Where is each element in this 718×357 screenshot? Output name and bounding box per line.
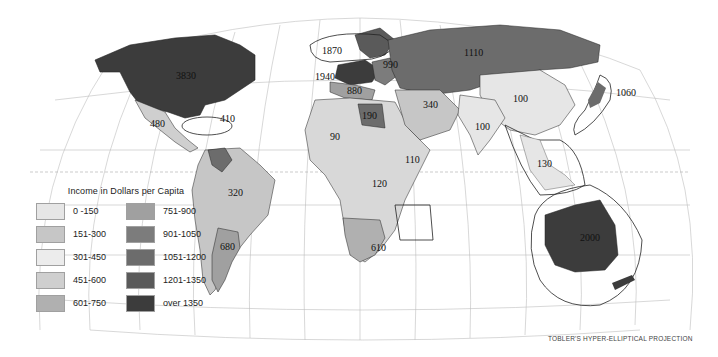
legend-label: 151-300 [73, 229, 106, 239]
legend-label: over 1350 [163, 298, 203, 308]
legend-item: 901-1050 [126, 225, 216, 243]
legend-item: over 1350 [126, 294, 216, 312]
legend-swatch [126, 295, 155, 312]
legend-label: 301-450 [73, 252, 106, 262]
legend-label: 1051-1200 [163, 252, 206, 262]
legend-swatch [36, 203, 65, 220]
legend-swatch [126, 226, 155, 243]
value-label-central-africa: 120 [372, 178, 387, 189]
value-label-libya: 190 [362, 110, 377, 121]
legend-swatch [36, 295, 65, 312]
value-label-west-africa: 90 [330, 131, 340, 142]
legend-label: 1201-1350 [163, 275, 206, 285]
value-label-soviet-union: 1110 [464, 47, 483, 58]
region-south-africa [343, 218, 385, 262]
value-label-east-africa: 110 [405, 154, 420, 165]
value-label-china: 100 [513, 93, 528, 104]
legend-title: Income in Dollars per Capita [36, 186, 216, 196]
legend-item: 451-600 [36, 271, 126, 289]
value-label-brazil: 320 [228, 187, 243, 198]
legend-item: 0 -150 [36, 202, 126, 220]
legend-label: 451-600 [73, 275, 106, 285]
value-label-argentina: 680 [220, 241, 235, 252]
legend-item: 151-300 [36, 225, 126, 243]
legend-swatch [36, 272, 65, 289]
legend-label: 0 -150 [73, 206, 99, 216]
legend: Income in Dollars per Capita 0 -150 151-… [36, 186, 216, 312]
region-new-zealand [612, 275, 635, 290]
projection-caption: TOBLER'S HYPER-ELLIPTICAL PROJECTION [548, 335, 693, 342]
value-label-southern-europe: 880 [347, 85, 362, 96]
legend-swatch [126, 203, 155, 220]
legend-item: 301-450 [36, 248, 126, 266]
legend-swatch [126, 272, 155, 289]
region-north-america [95, 35, 255, 118]
value-label-north-america: 3830 [176, 70, 196, 81]
legend-label: 751-900 [163, 206, 196, 216]
legend-item: 1201-1350 [126, 271, 216, 289]
value-label-eastern-europe: 990 [383, 59, 398, 70]
legend-label: 601-750 [73, 298, 106, 308]
legend-swatch [126, 249, 155, 266]
value-label-india: 100 [475, 121, 490, 132]
legend-item: 1051-1200 [126, 248, 216, 266]
legend-swatch [36, 226, 65, 243]
value-label-caribbean: 410 [220, 113, 235, 124]
value-label-southeast-asia: 130 [537, 158, 552, 169]
value-label-japan: 1060 [616, 87, 636, 98]
value-label-mexico: 480 [150, 118, 165, 129]
value-label-south-africa: 610 [371, 242, 386, 253]
value-label-australia: 2000 [580, 232, 600, 243]
legend-grid: 0 -150 151-300 301-450 451-600 601-750 7… [36, 202, 216, 312]
legend-item: 751-900 [126, 202, 216, 220]
region-argentina [212, 228, 240, 292]
value-label-middle-east: 340 [423, 99, 438, 110]
legend-item: 601-750 [36, 294, 126, 312]
legend-swatch [36, 249, 65, 266]
legend-label: 901-1050 [163, 229, 201, 239]
value-label-northern-europe: 1870 [322, 45, 342, 56]
value-label-western-europe: 1940 [315, 71, 335, 82]
